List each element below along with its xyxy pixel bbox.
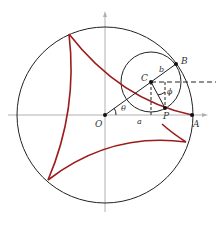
- hypocycloid-diagram: O A B C P a b θ ϕ: [0, 0, 218, 226]
- x-axis-arrow-icon: [202, 113, 208, 117]
- y-axis-arrow-icon: [103, 11, 107, 17]
- point-b: [174, 62, 178, 66]
- label-a: A: [192, 119, 200, 129]
- point-c: [149, 80, 153, 84]
- label-a-radius: a: [137, 117, 142, 126]
- label-c: C: [141, 73, 148, 83]
- label-b: B: [180, 56, 188, 66]
- label-phi: ϕ: [167, 87, 173, 96]
- label-theta: θ: [121, 104, 126, 113]
- label-o: O: [95, 119, 103, 129]
- point-p: [163, 106, 167, 110]
- point-o: [103, 113, 107, 117]
- theta-arc: [114, 108, 116, 115]
- point-a: [190, 113, 194, 117]
- label-b-radius: b: [159, 65, 164, 74]
- phi-arc: [158, 92, 165, 95]
- label-p: P: [162, 111, 170, 121]
